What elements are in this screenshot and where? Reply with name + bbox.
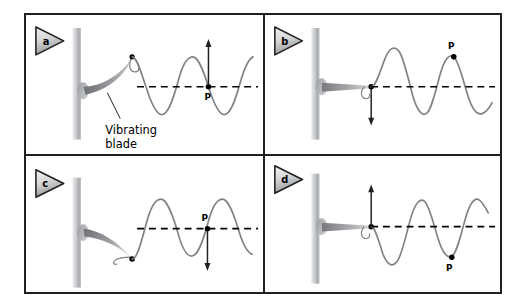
point-p-marker	[206, 84, 212, 90]
vibrating-blade	[84, 228, 132, 257]
point-p-label: P	[446, 262, 453, 272]
point-p-marker	[451, 54, 457, 60]
panel-b: b P	[263, 15, 500, 154]
velocity-arrow-down	[204, 230, 210, 270]
point-p-label: P	[202, 212, 209, 222]
wave-figure: a P	[0, 0, 525, 307]
panel-tag-d-letter: d	[281, 174, 288, 185]
wave-curve	[371, 199, 488, 265]
panel-tag-a: a	[36, 27, 64, 55]
panel-tag-b: b	[275, 27, 303, 55]
blade-tip-hook	[113, 257, 131, 264]
point-p-label: P	[448, 41, 455, 51]
annotation-leader-line	[107, 93, 120, 119]
panel-tag-c: c	[36, 169, 64, 196]
panel-a-graphic: a P	[26, 15, 263, 154]
panel-tag-c-letter: c	[42, 178, 48, 189]
panel-tag-d: d	[275, 165, 303, 192]
vibrating-blade	[84, 58, 133, 95]
panel-d-graphic: d P	[265, 156, 500, 293]
wave-curve	[132, 57, 253, 115]
panel-c-graphic: c P	[26, 156, 263, 293]
panel-d: d P	[263, 154, 500, 293]
wave-curve	[371, 48, 492, 114]
velocity-arrow-up	[368, 184, 374, 224]
panel-a: a P	[26, 15, 263, 154]
panel-grid: a P	[24, 13, 502, 294]
point-p-marker	[449, 254, 455, 259]
point-p-marker	[205, 225, 211, 230]
annotation-label-line2: blade	[105, 136, 137, 150]
point-p-label: P	[204, 92, 211, 102]
panel-tag-a-letter: a	[43, 36, 50, 47]
panel-b-graphic: b P	[265, 15, 500, 154]
annotation-label-line1: Vibrating	[105, 123, 157, 137]
panel-tag-b-letter: b	[281, 36, 288, 47]
panel-c: c P	[26, 154, 263, 293]
